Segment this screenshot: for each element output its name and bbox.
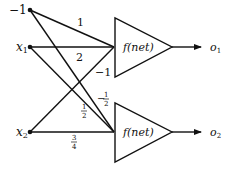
svg-text:2: 2 xyxy=(82,112,86,120)
weight-x2-unit2: 3 4 xyxy=(71,134,77,151)
weight-x1-unit2: 1 2 xyxy=(81,103,87,120)
weight-bias-unit2: − 1 2 xyxy=(97,91,109,108)
input-node-bias xyxy=(28,8,33,13)
unit2-activation-label: f(net) xyxy=(122,126,154,139)
weight-x1-unit1: 2 xyxy=(76,51,83,64)
input-label-x2: x2 xyxy=(16,125,28,140)
network-diagram: −1 x1 x2 1 2 −1 − 1 2 1 2 3 4 f(net) o1 … xyxy=(0,0,230,175)
input-node-x2 xyxy=(28,130,33,135)
input-label-x1: x1 xyxy=(16,40,28,55)
svg-text:2: 2 xyxy=(104,100,108,108)
unit1-activation-label: f(net) xyxy=(122,41,154,54)
input-node-x1 xyxy=(28,45,33,50)
output-label-o1: o1 xyxy=(210,41,221,55)
svg-text:1: 1 xyxy=(104,91,108,99)
input-label-bias: −1 xyxy=(9,3,27,17)
svg-text:4: 4 xyxy=(72,143,77,151)
svg-text:1: 1 xyxy=(82,103,86,111)
weight-bias-unit1: 1 xyxy=(77,16,84,29)
weight-x2-unit1: −1 xyxy=(95,66,111,79)
svg-text:3: 3 xyxy=(72,134,76,142)
output-label-o2: o2 xyxy=(210,126,221,140)
